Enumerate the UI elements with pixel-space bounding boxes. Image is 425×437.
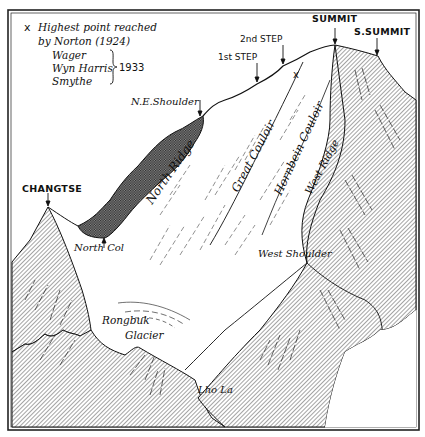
foreground-ridge-left: [12, 330, 225, 427]
second-step-label: 2nd STEP: [240, 34, 283, 44]
rongbuk-label-line-1: Rongbuk: [101, 314, 150, 326]
changtse-label: CHANGTSE: [22, 183, 82, 194]
lho-la-label: Lho La: [197, 384, 233, 395]
north-col-label: North Col: [73, 242, 124, 253]
legend-year: 1933: [119, 62, 144, 73]
legend-name-smythe: Smythe: [52, 75, 92, 87]
high-point-marker: x: [293, 69, 299, 80]
legend-name-wager: Wager: [52, 49, 87, 61]
rongbuk-label-line-2: Glacier: [125, 329, 164, 341]
legend: x Highest point reached by Norton (1924)…: [24, 21, 157, 87]
north-ridge-slab: [78, 116, 203, 238]
west-shoulder-label: West Shoulder: [258, 248, 333, 259]
everest-diagram: x Highest point reached by Norton (1924)…: [0, 0, 425, 437]
legend-line-1: Highest point reached: [37, 21, 157, 33]
south-summit-label: S.SUMMIT: [354, 26, 411, 37]
legend-name-wyn-harris: Wyn Harris: [52, 62, 113, 74]
summit-label: SUMMIT: [312, 13, 357, 24]
legend-marker: x: [24, 21, 31, 34]
ne-shoulder-label: N.E.Shoulder: [130, 96, 200, 107]
first-step-label: 1st STEP: [218, 52, 258, 62]
legend-line-2: by Norton (1924): [38, 35, 130, 47]
